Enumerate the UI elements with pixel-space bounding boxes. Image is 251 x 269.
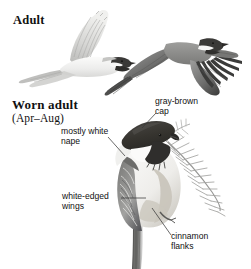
illustration-layer (0, 0, 251, 269)
callout-gray-brown-cap: gray-brown cap (155, 97, 198, 116)
worn-adult-season-label: (Apr–Aug) (12, 112, 64, 124)
field-guide-plate: Adult Worn adult (Apr–Aug) gray-brown ca… (0, 0, 251, 269)
callout-cinnamon-flanks: cinnamon flanks (171, 232, 208, 251)
callout-white-edged-wings: white-edged wings (62, 192, 109, 211)
callout-mostly-white-nape: mostly white nape (61, 127, 108, 146)
worn-adult-heading: Worn adult (12, 98, 78, 112)
adult-heading: Adult (13, 14, 45, 27)
